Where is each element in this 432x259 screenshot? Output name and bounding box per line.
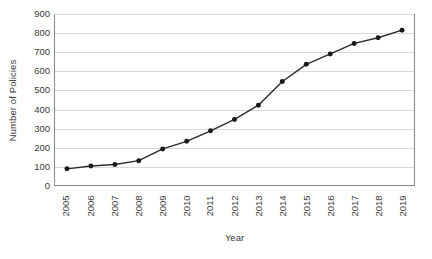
- data-point: 2018: 775: [376, 35, 381, 40]
- data-point: 2009: 190: [160, 146, 165, 151]
- data-point: 2011: 285: [208, 128, 213, 133]
- y-tick-label: 400: [20, 105, 50, 115]
- data-point: 2014: 545: [280, 79, 285, 84]
- y-tick-label: 200: [20, 143, 50, 153]
- data-point: 2015: 635: [304, 62, 309, 67]
- data-point: 2017: 745: [352, 41, 357, 46]
- y-axis-title-text: Number of Policies: [8, 59, 19, 141]
- x-tick-label-text: 2011: [205, 196, 215, 216]
- data-point: 2013: 420: [256, 103, 261, 108]
- x-axis-tick-labels: 2005200620072008200920102011201220132014…: [54, 188, 415, 228]
- data-point: 2008: 128: [136, 158, 141, 163]
- x-tick-label-text: 2010: [181, 195, 191, 216]
- x-tick-label-text: 2009: [157, 195, 167, 216]
- x-tick-label-text: 2018: [374, 195, 384, 216]
- series-line: [67, 30, 402, 169]
- y-tick-label: 900: [20, 9, 50, 19]
- y-tick-label: 800: [20, 28, 50, 38]
- x-tick-label-text: 2014: [278, 195, 288, 216]
- x-tick-label-text: 2015: [302, 195, 312, 216]
- y-tick-label: 500: [20, 86, 50, 96]
- y-axis-tick-labels: 0100200300400500600700800900: [20, 14, 50, 186]
- y-tick-label: 300: [20, 124, 50, 134]
- x-tick-label-text: 2019: [398, 195, 408, 216]
- y-tick-label: 600: [20, 67, 50, 77]
- x-tick-label-text: 2006: [85, 195, 95, 216]
- x-tick-label-text: 2017: [350, 195, 360, 216]
- data-point: 2012: 345: [232, 117, 237, 122]
- x-tick-label: 2019: [384, 188, 422, 226]
- data-point: 2006: 100: [88, 164, 93, 169]
- x-tick-label-text: 2005: [61, 195, 71, 216]
- x-tick-label-text: 2012: [229, 195, 239, 216]
- x-tick-label-text: 2013: [254, 195, 264, 216]
- data-point: 2016: 690: [328, 51, 333, 56]
- data-point: 2019: 815: [400, 28, 405, 33]
- y-tick-label: 100: [20, 162, 50, 172]
- data-point: 2005: 85: [64, 166, 69, 171]
- y-tick-label: 0: [20, 181, 50, 191]
- chart-figure: Number of Policies 010020030040050060070…: [0, 0, 432, 259]
- data-point: 2007: 108: [112, 162, 117, 167]
- series-line-chart: 2005: 852006: 1002007: 1082008: 1282009:…: [55, 14, 414, 185]
- x-tick-label-text: 2008: [133, 195, 143, 216]
- y-tick-label: 700: [20, 47, 50, 57]
- plot-area: 2005: 852006: 1002007: 1082008: 1282009:…: [54, 14, 415, 186]
- x-axis-title: Year: [54, 232, 415, 243]
- x-tick-label-text: 2007: [109, 195, 119, 216]
- x-tick-label-text: 2016: [326, 195, 336, 216]
- data-point: 2010: 230: [184, 139, 189, 144]
